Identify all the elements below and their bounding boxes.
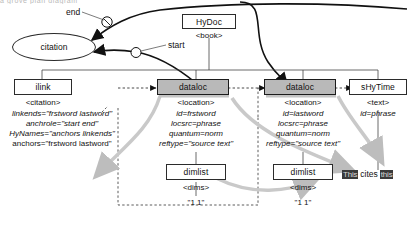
ilink-attr-linkends: linkends="frstword lastword" bbox=[0, 109, 127, 119]
node-dataloc-2-label: dataloc bbox=[286, 82, 314, 92]
node-dataloc-1-type: <location> bbox=[146, 98, 246, 108]
node-dimlist-1[interactable]: dimlist bbox=[166, 164, 226, 180]
highlight-word-after: this bbox=[380, 170, 394, 179]
ilink-attr-anchors: anchors="frstword lastword" bbox=[0, 139, 137, 149]
node-dataloc-1-label: dataloc bbox=[179, 82, 207, 92]
node-shytime-label: sHyTime bbox=[361, 82, 395, 92]
diagram-canvas: a grove plan diagram bbox=[0, 0, 412, 226]
dataloc-2-attr-quantum: quantum=norm bbox=[243, 129, 363, 139]
node-shytime[interactable]: sHyTime bbox=[349, 79, 407, 95]
node-ilink[interactable]: ilink bbox=[14, 79, 72, 95]
node-dataloc-1[interactable]: dataloc bbox=[157, 79, 229, 95]
dataloc-1-attr-locsrc: locsrc=phrase bbox=[136, 119, 256, 129]
node-dataloc-2[interactable]: dataloc bbox=[264, 79, 336, 95]
node-dimlist-2-type: <dims> bbox=[263, 183, 343, 193]
node-hydoc-label: HyDoc bbox=[196, 17, 222, 27]
node-hydoc-type: <book> bbox=[179, 31, 239, 41]
dataloc-2-attr-locsrc: locsrc=phrase bbox=[243, 119, 363, 129]
dataloc-1-attr-quantum: quantum=norm bbox=[136, 129, 256, 139]
edge-label-start: start bbox=[168, 40, 185, 50]
node-dimlist-1-type: <dims> bbox=[156, 183, 236, 193]
shytime-attr-id: id=phrase bbox=[338, 109, 412, 119]
edge-label-end: end bbox=[66, 7, 80, 17]
node-shytime-type: <text> bbox=[338, 98, 412, 108]
dimlist-2-value: "1 1" bbox=[273, 198, 333, 208]
source-text-middle: cites bbox=[358, 169, 379, 179]
ilink-attr-anchrole: anchrole="start end" bbox=[0, 119, 127, 129]
source-text-sample: Thiscitesthis bbox=[342, 169, 393, 179]
node-ilink-type: <citation> bbox=[0, 98, 88, 108]
node-dimlist-2-label: dimlist bbox=[291, 167, 316, 177]
dataloc-1-attr-id: id=frstword bbox=[136, 109, 256, 119]
node-citation[interactable]: citation bbox=[12, 33, 96, 61]
ilink-attr-hynames: HyNames="anchors linkends" bbox=[0, 129, 137, 139]
dimlist-1-value: "1 1" bbox=[166, 198, 226, 208]
node-citation-label: citation bbox=[41, 42, 68, 52]
node-dimlist-1-label: dimlist bbox=[184, 167, 209, 177]
dataloc-2-attr-reftype: reftype="source text" bbox=[233, 139, 373, 149]
node-hydoc[interactable]: HyDoc bbox=[182, 14, 236, 29]
node-ilink-label: ilink bbox=[35, 82, 50, 92]
highlight-word-before: This bbox=[342, 170, 358, 179]
node-dimlist-2[interactable]: dimlist bbox=[273, 164, 333, 180]
